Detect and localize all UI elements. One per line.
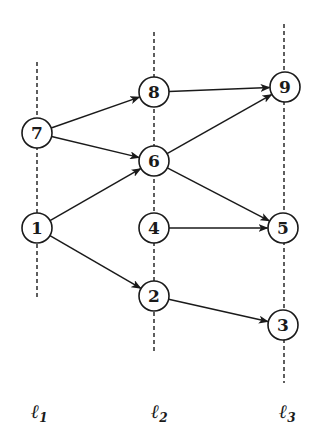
node-label: 2 [148, 286, 160, 306]
edge-6-to-9 [167, 95, 271, 154]
node-label: 5 [277, 218, 289, 238]
node-2: 2 [139, 281, 169, 311]
edge-1-to-2 [50, 236, 141, 289]
level-label-l1: ℓ1 [31, 400, 47, 425]
node-label: 7 [31, 123, 43, 143]
node-label: 3 [277, 315, 289, 335]
node-1: 1 [22, 213, 52, 243]
node-label: 6 [148, 151, 160, 171]
node-label: 8 [148, 82, 160, 102]
level-label-l3: ℓ3 [279, 400, 295, 425]
node-3: 3 [268, 310, 298, 340]
edge-7-to-6 [52, 136, 139, 157]
layered-graph-diagram: 718642953 ℓ1ℓ2ℓ3 [0, 0, 323, 444]
level-labels: ℓ1ℓ2ℓ3 [31, 400, 295, 425]
edge-1-to-6 [50, 169, 141, 221]
node-label: 4 [148, 218, 160, 238]
node-8: 8 [139, 77, 169, 107]
edge-6-to-5 [167, 168, 269, 221]
node-5: 5 [268, 213, 298, 243]
edge-7-to-8 [51, 97, 139, 128]
node-6: 6 [139, 146, 169, 176]
edge-2-to-3 [169, 299, 268, 321]
level-label-l2: ℓ2 [151, 400, 167, 425]
node-7: 7 [22, 118, 52, 148]
node-9: 9 [270, 72, 300, 102]
nodes: 718642953 [22, 72, 300, 340]
node-label: 1 [31, 218, 43, 238]
node-4: 4 [139, 213, 169, 243]
edge-8-to-9 [169, 88, 270, 92]
node-label: 9 [279, 77, 291, 97]
